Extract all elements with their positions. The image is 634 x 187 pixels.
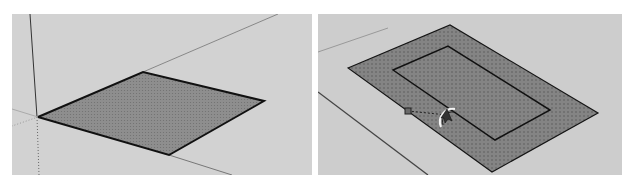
blue-axis-dotted bbox=[37, 117, 39, 175]
inference-point-icon bbox=[405, 108, 411, 114]
rectangle-face[interactable] bbox=[38, 72, 264, 155]
guide-line-top bbox=[318, 28, 388, 52]
red-axis-line bbox=[143, 14, 278, 72]
scene-left bbox=[12, 14, 312, 175]
axis-lower-left bbox=[12, 109, 38, 117]
outer-face[interactable] bbox=[348, 25, 598, 172]
green-axis-extension bbox=[169, 155, 232, 175]
blue-axis-line bbox=[30, 14, 37, 117]
green-axis-dotted bbox=[12, 117, 38, 126]
viewport-right[interactable] bbox=[318, 14, 622, 175]
scene-right bbox=[318, 14, 622, 175]
viewport-left[interactable] bbox=[12, 14, 312, 175]
